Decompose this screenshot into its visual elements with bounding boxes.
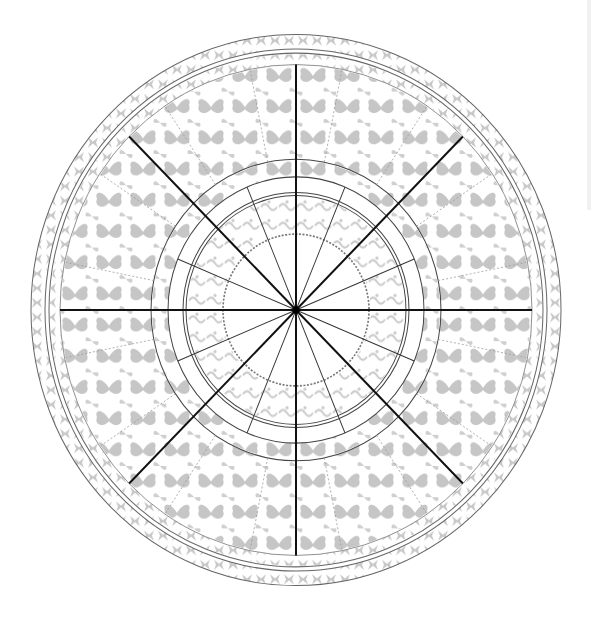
mandala-diagram (0, 0, 591, 624)
center-dot (293, 306, 300, 313)
mandala-body (31, 34, 561, 585)
